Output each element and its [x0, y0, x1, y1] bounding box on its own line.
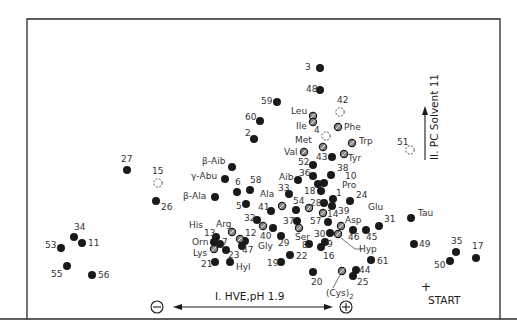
spot-label: Asp: [345, 215, 362, 225]
spot-51: [406, 146, 414, 154]
spot-label: Tyr: [347, 153, 361, 163]
spot-42: [336, 108, 344, 116]
spot-label: 54: [293, 196, 305, 206]
spot-label: 47: [242, 245, 253, 255]
spot-cys2: [338, 267, 345, 274]
spot-label: β-Ala: [183, 191, 206, 201]
spot-label: Ala: [260, 189, 274, 199]
spot-label: 28: [310, 198, 322, 208]
spot-25: [349, 272, 357, 280]
spot-6: [233, 188, 241, 196]
spot-label: 17: [472, 241, 483, 251]
spot-4: [322, 132, 330, 140]
spot-label: 55: [51, 269, 62, 279]
spot-c1: [259, 222, 266, 229]
spot-label: 33: [278, 183, 289, 193]
spot-label: β-Aib: [202, 156, 226, 166]
spot-17: [472, 254, 480, 262]
spot-hyp: [334, 230, 341, 237]
spot-label: Tau: [417, 208, 433, 218]
spot-label: 32: [244, 213, 255, 223]
spot-22: [286, 251, 294, 259]
spot-label: Hyl: [236, 262, 251, 272]
spot-label: 9: [327, 239, 333, 249]
spot-label: 23: [228, 250, 239, 260]
spot-label: 5: [236, 201, 242, 211]
spot-label: 12: [245, 228, 256, 238]
spot-label: 14: [327, 209, 339, 219]
spot-label: 45: [366, 232, 377, 242]
spot-label: Gly: [258, 241, 273, 251]
spot-label: 30: [314, 229, 326, 239]
spot-label: 29: [278, 238, 290, 248]
spot-label: Glu: [368, 202, 383, 212]
spot-label: 24: [356, 190, 368, 200]
spot-49: [410, 240, 418, 248]
spot-phe: [334, 123, 341, 130]
spot-15: [154, 179, 162, 187]
spot-24: [346, 197, 354, 205]
x-axis-label: I. HVE,pH 1.9: [215, 290, 284, 302]
spot-34: [70, 233, 78, 241]
spot-tau: [407, 214, 415, 222]
spot-label: 15: [152, 166, 163, 176]
spot-16: [317, 243, 325, 251]
spot-label: 25: [357, 277, 368, 287]
spot-label: 1: [336, 188, 342, 198]
spot-label: Orn: [192, 237, 208, 247]
spot-tyr: [340, 150, 347, 157]
start-label: START: [428, 294, 461, 306]
spot-55: [63, 262, 71, 270]
spot-54: [292, 206, 300, 214]
spot-58: [246, 186, 254, 194]
spot-label: 44: [359, 265, 371, 275]
spot-label: His: [189, 220, 203, 230]
spot-label: 37: [283, 216, 294, 226]
spot-label: Met: [295, 135, 312, 145]
spot-trp: [348, 139, 355, 146]
spot-label: 34: [74, 222, 86, 232]
spot-label: 11: [88, 238, 99, 248]
spot-label: 6: [235, 177, 241, 187]
spot-label: Ile: [296, 121, 307, 131]
spot-label: 50: [434, 260, 446, 270]
spot-label: 31: [384, 214, 395, 224]
spot-14: [324, 218, 332, 226]
spot-11: [78, 239, 86, 247]
cys-leader-line: [333, 275, 340, 288]
spot-label: Phe: [344, 122, 361, 132]
spot-label: 59: [261, 96, 273, 106]
labels-layer: 3485960242LeuIle4PheMetTrpVal43Tyr515238…: [45, 62, 483, 301]
spot-label: 56: [98, 270, 110, 280]
spot-label: Val: [284, 147, 297, 157]
spot-label: 40: [260, 231, 272, 241]
spot-31: [375, 222, 383, 230]
spot-asp: [337, 222, 344, 229]
spot-label: 16: [323, 251, 335, 261]
spot-beta-ala: [211, 193, 219, 201]
spot-label: 18: [304, 186, 316, 196]
spot-label: 20: [311, 277, 323, 287]
spot-27: [123, 166, 131, 174]
spot-beta-aib: [228, 163, 236, 171]
spot-label: 61: [377, 256, 388, 266]
spot-56: [88, 271, 96, 279]
spot-59: [273, 98, 281, 106]
spot-18: [317, 187, 325, 195]
spot-label: 49: [419, 239, 431, 249]
spot-val: [300, 148, 307, 155]
spot-a2: [320, 179, 328, 187]
spot-label: Pro: [342, 180, 357, 190]
spot-label: 52: [298, 157, 309, 167]
spot-label: 43: [316, 152, 327, 162]
spot-label: 19: [267, 258, 279, 268]
spot-label: 4: [314, 125, 320, 135]
spot-lys: [210, 245, 217, 252]
spot-label: 48: [306, 84, 318, 94]
spot-label: γ-Abu: [191, 171, 217, 181]
spot-c2: [295, 224, 302, 231]
spot-label: 46: [348, 232, 360, 242]
fingerprint-map: 3485960242LeuIle4PheMetTrpVal43Tyr515238…: [0, 0, 517, 335]
spot-label: 36: [299, 168, 311, 178]
spot-38: [327, 171, 335, 179]
